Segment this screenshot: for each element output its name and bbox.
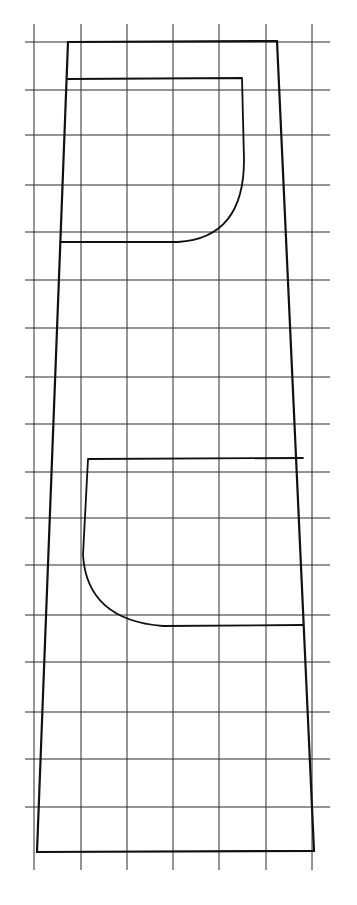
upper-pocket-shape [60, 78, 244, 242]
grid-lines [25, 24, 330, 870]
pattern-diagram [0, 0, 357, 905]
lower-pocket-shape [83, 458, 303, 626]
outer-panel-trapezoid [37, 41, 314, 852]
